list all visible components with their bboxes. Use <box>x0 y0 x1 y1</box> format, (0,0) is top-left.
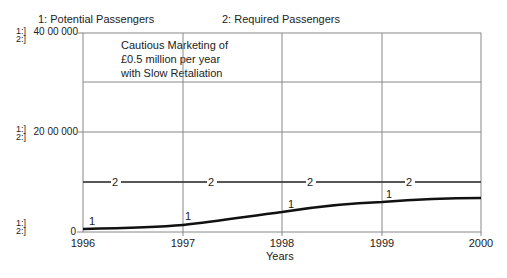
x-tick-1998: 1998 <box>262 237 302 249</box>
svg-text:2: 2 <box>406 176 412 188</box>
svg-text:1: 1 <box>288 198 294 210</box>
svg-text:2: 2 <box>112 176 118 188</box>
svg-text:1: 1 <box>185 210 191 222</box>
svg-text:2: 2 <box>307 176 313 188</box>
x-tick-1999: 1999 <box>362 237 402 249</box>
x-axis-label: Years <box>266 250 294 262</box>
gridlines <box>77 33 481 236</box>
x-tick-2000: 2000 <box>461 237 501 249</box>
x-tick-1996: 1996 <box>63 237 103 249</box>
svg-text:2: 2 <box>208 176 214 188</box>
x-tick-1997: 1997 <box>163 237 203 249</box>
svg-text:1: 1 <box>386 188 392 200</box>
svg-text:1: 1 <box>89 215 95 227</box>
